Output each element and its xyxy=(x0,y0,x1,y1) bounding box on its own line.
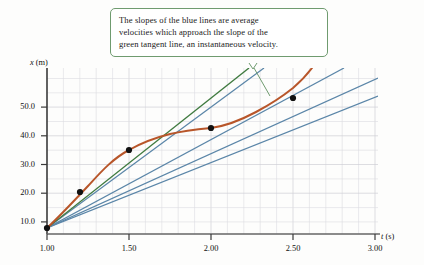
x-axis-symbol: t xyxy=(381,232,383,241)
point-marker-t1-50 xyxy=(126,147,132,153)
point-marker-t1-20 xyxy=(77,189,83,195)
x-axis-ticks xyxy=(47,234,375,240)
secant-line-3 xyxy=(47,78,378,228)
y-tick-label-50: 50.0 xyxy=(5,102,35,111)
position-curve xyxy=(47,68,312,228)
y-tick-label-30: 30.0 xyxy=(5,160,35,169)
x-tick-label-1-50: 1.50 xyxy=(109,244,149,253)
tangent-line-group xyxy=(47,68,249,228)
callout-line-3: green tangent line, an instantaneous vel… xyxy=(119,38,320,50)
secant-line-2 xyxy=(47,68,344,228)
callout-line-1: The slopes of the blue lines are average xyxy=(119,14,320,26)
y-tick-label-40: 40.0 xyxy=(5,131,35,140)
secant-line-4 xyxy=(47,96,378,228)
point-marker-t1 xyxy=(44,225,50,231)
x-tick-label-2-50: 2.50 xyxy=(273,244,313,253)
callout-pointer xyxy=(249,63,270,96)
callout-box: The slopes of the blue lines are average… xyxy=(110,8,328,57)
y-axis-symbol: x xyxy=(30,58,34,67)
callout-line-2: velocities which approach the slope of t… xyxy=(119,26,320,38)
y-axis-label: x (m) xyxy=(30,58,48,67)
data-point-markers xyxy=(44,95,296,231)
x-axis-unit: (s) xyxy=(385,232,394,241)
point-marker-t3 xyxy=(290,95,296,101)
y-axis-unit: (m) xyxy=(36,58,48,67)
x-tick-label-3-00: 3.00 xyxy=(355,244,395,253)
y-tick-label-20: 20.0 xyxy=(5,188,35,197)
y-axis-ticks xyxy=(41,107,47,222)
x-tick-label-1-00: 1.00 xyxy=(27,244,67,253)
position-curve-group xyxy=(47,68,312,228)
figure-root: The slopes of the blue lines are average… xyxy=(0,0,424,265)
x-axis-label: t (s) xyxy=(381,232,394,241)
secant-lines-group xyxy=(47,68,378,228)
x-tick-label-2-00: 2.00 xyxy=(191,244,231,253)
point-marker-t2 xyxy=(208,125,214,131)
y-tick-label-10: 10.0 xyxy=(5,217,35,226)
tangent-line xyxy=(47,68,249,228)
